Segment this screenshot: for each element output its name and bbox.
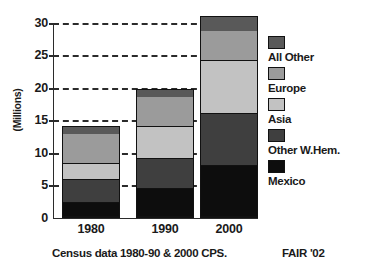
segment-1990-mexico — [137, 189, 193, 217]
legend-item-all-other[interactable]: All Other — [268, 36, 363, 65]
y-tick-labels: 30 25 20 15 10 5 0 — [18, 0, 48, 230]
segment-1980-asia — [63, 164, 119, 180]
tickmark-25 — [49, 55, 55, 57]
segment-1980-mexico — [63, 203, 119, 217]
tickmark-20 — [49, 88, 55, 90]
segment-1980-other-whem — [63, 180, 119, 203]
legend-item-other-whem[interactable]: Other W.Hem. — [268, 129, 363, 158]
y-tick-25: 25 — [34, 49, 48, 62]
legend-item-mexico[interactable]: Mexico — [268, 160, 363, 189]
legend-swatch-all-other-icon — [268, 36, 285, 49]
tickmark-15 — [49, 120, 55, 122]
legend-label-mexico: Mexico — [268, 174, 363, 189]
segment-1980-all-other — [63, 127, 119, 134]
y-tick-10: 10 — [34, 147, 48, 160]
legend-label-all-other: All Other — [268, 50, 363, 65]
footer-source-note: Census data 1980-90 & 2000 CPS. — [52, 247, 227, 259]
segment-1990-asia — [137, 127, 193, 159]
y-tick-0: 0 — [41, 212, 48, 225]
x-axis-line — [53, 218, 258, 219]
legend-swatch-asia-icon — [268, 98, 285, 111]
segment-2000-all-other — [201, 17, 257, 31]
x-tick-label-1980: 1980 — [56, 222, 126, 236]
tickmark-10 — [49, 153, 55, 155]
segment-2000-other-whem — [201, 114, 257, 166]
tickmark-30 — [49, 23, 55, 25]
segment-2000-asia — [201, 61, 257, 114]
tickmark-5 — [49, 185, 55, 187]
legend-item-asia[interactable]: Asia — [268, 98, 363, 127]
legend-label-europe: Europe — [268, 81, 363, 96]
y-tick-5: 5 — [41, 179, 48, 192]
legend-label-asia: Asia — [268, 112, 363, 127]
segment-2000-europe — [201, 31, 257, 61]
y-tick-15: 15 — [34, 114, 48, 127]
chart-figure: (Millions) 30 25 20 15 10 5 0 — [0, 0, 367, 270]
legend-swatch-europe-icon — [268, 67, 285, 80]
legend-item-europe[interactable]: Europe — [268, 67, 363, 96]
x-tick-label-1990: 1990 — [130, 222, 200, 236]
chart-footer: Census data 1980-90 & 2000 CPS. FAIR '02 — [0, 247, 367, 265]
bar-1990 — [136, 89, 194, 218]
legend-swatch-other-whem-icon — [268, 129, 285, 142]
chart-legend: All Other Europe Asia Other W.Hem. Mexic… — [268, 36, 363, 191]
footer-credit: FAIR '02 — [282, 247, 325, 259]
x-tick-label-2000: 2000 — [194, 222, 264, 236]
bar-2000 — [200, 16, 258, 218]
y-tick-20: 20 — [34, 82, 48, 95]
bar-1980 — [62, 126, 120, 218]
y-axis-line — [53, 23, 54, 219]
segment-1990-other-whem — [137, 159, 193, 189]
segment-1990-europe — [137, 97, 193, 128]
y-tick-30: 30 — [34, 17, 48, 30]
legend-label-other-whem: Other W.Hem. — [268, 143, 363, 158]
legend-swatch-mexico-icon — [268, 160, 285, 173]
segment-1980-europe — [63, 134, 119, 164]
segment-2000-mexico — [201, 166, 257, 217]
